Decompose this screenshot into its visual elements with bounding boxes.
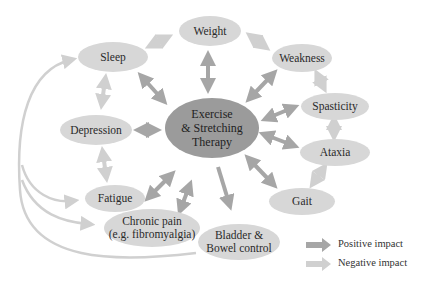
node-weakness: Weakness xyxy=(272,44,332,72)
node-chronic-pain: Chronic pain (e.g. fibromyalgia) xyxy=(104,209,200,247)
node-weight: Weight xyxy=(179,16,241,46)
node-gait: Gait xyxy=(269,188,335,215)
node-ataxia: Ataxia xyxy=(300,139,370,166)
legend-negative: Negative impact xyxy=(338,257,407,268)
legend-arrows xyxy=(306,238,331,271)
node-spasticity: Spasticity xyxy=(301,93,369,120)
legend-positive: Positive impact xyxy=(338,238,403,249)
node-depression: Depression xyxy=(60,115,132,145)
node-sleep: Sleep xyxy=(78,42,148,72)
diagram: Weight Sleep Weakness Spasticity Depress… xyxy=(0,0,421,284)
node-bladder-bowel: Bladder & Bowel control xyxy=(198,224,280,260)
node-fatigue: Fatigue xyxy=(85,185,145,212)
center-exercise-therapy: Exercise & Stretching Therapy xyxy=(165,98,259,158)
